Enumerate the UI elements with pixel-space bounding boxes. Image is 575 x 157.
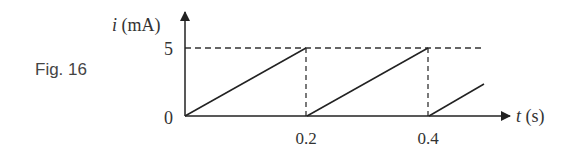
- ramp-2: [307, 48, 428, 116]
- sawtooth-chart: i (mA) 5 0 0.2 0.4 t (s): [0, 0, 575, 157]
- x-tick-0-4: 0.4: [417, 129, 439, 148]
- origin-label: 0: [164, 108, 173, 128]
- y-axis-label: i (mA): [112, 15, 161, 36]
- y-tick-5: 5: [164, 39, 173, 59]
- ramp-3: [429, 84, 484, 116]
- x-tick-0-2: 0.2: [295, 129, 316, 148]
- x-axis-label: t (s): [516, 106, 545, 127]
- ramp-1: [185, 48, 306, 116]
